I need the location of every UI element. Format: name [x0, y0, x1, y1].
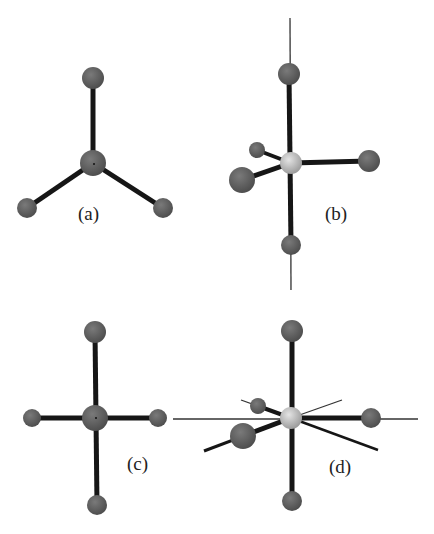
ligand-atom: [281, 235, 301, 255]
central-atom: [80, 150, 106, 176]
panel-label-d: (d): [329, 456, 351, 478]
ligand-atom: [250, 398, 266, 414]
panel-label-b: (b): [325, 203, 347, 225]
central-atom: [280, 152, 302, 174]
ligand-atom: [249, 142, 265, 158]
panel-d: (d): [173, 320, 418, 511]
ligand-atom: [361, 408, 381, 428]
ligand-atom: [281, 320, 303, 342]
central-atom: [280, 407, 302, 429]
ligand-atom: [84, 321, 106, 343]
panel-label-a: (a): [78, 203, 99, 225]
ligand-atom: [229, 167, 255, 193]
panel-label-c: (c): [127, 453, 148, 475]
ligand-atom: [278, 63, 300, 85]
ligand-atom: [17, 198, 37, 218]
ligand-atom: [358, 150, 380, 172]
ligand-atom: [153, 198, 173, 218]
molecular-geometry-figure: (a) (b) (c): [0, 0, 434, 534]
ligand-atom: [282, 491, 302, 511]
ligand-atom: [149, 409, 167, 427]
ligand-atom: [87, 495, 107, 515]
panel-a: (a): [17, 67, 173, 225]
panel-b: (b): [229, 18, 380, 290]
ligand-atom: [23, 409, 41, 427]
panel-c: (c): [23, 321, 167, 515]
ligand-atom: [230, 423, 256, 449]
ligand-atom: [82, 67, 104, 89]
